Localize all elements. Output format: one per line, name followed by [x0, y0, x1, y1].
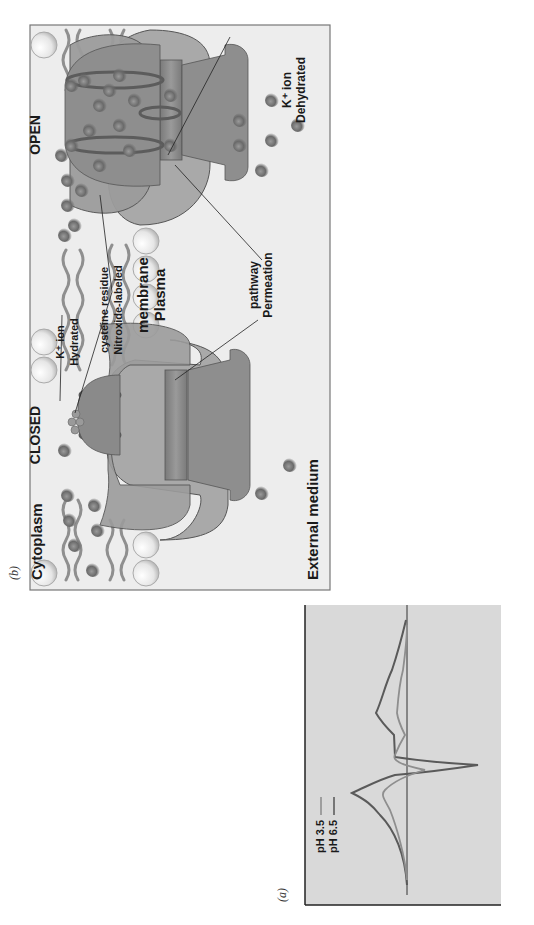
label-open: OPEN [27, 115, 43, 155]
caption-b: (b) [7, 566, 21, 580]
caption-a: (a) [275, 888, 289, 902]
label-permeation-1: Permeation [261, 252, 275, 317]
figure-canvas: External medium Cytoplasm Dehydrated K⁺ … [0, 0, 534, 925]
label-dehydrated-1: Dehydrated [294, 57, 308, 123]
label-external-medium: External medium [304, 459, 321, 580]
label-hydrated-2: K⁺ ion [54, 325, 66, 359]
label-closed: CLOSED [27, 406, 43, 464]
label-plasma-1: Plasma [151, 268, 168, 321]
label-nitroxide-2: cysteine residue [98, 267, 110, 353]
label-cytoplasm: Cytoplasm [28, 503, 45, 580]
legend-ph-3-5-label: pH 3.5 [314, 820, 326, 853]
label-plasma-2: membrane [134, 257, 151, 333]
label-permeation-2: pathway [247, 261, 261, 309]
label-nitroxide-1: Nitroxide-labeled [112, 265, 124, 354]
panel-a: pH 3.5 pH 6.5 (a) [275, 605, 501, 905]
panel-b: External medium Cytoplasm Dehydrated K⁺ … [7, 25, 330, 590]
label-hydrated-1: Hydrated [68, 318, 80, 366]
legend-ph-6-5-label: pH 6.5 [327, 820, 339, 853]
label-dehydrated-2: K⁺ ion [280, 72, 294, 108]
